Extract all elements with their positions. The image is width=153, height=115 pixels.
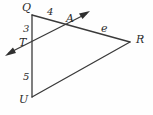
segment-length-label-TU: 5 <box>23 72 29 82</box>
segment-length-label-QA: 4 <box>47 7 53 17</box>
vertex-label-U: U <box>19 94 28 105</box>
vertex-label-T: T <box>19 37 26 48</box>
vertex-label-R: R <box>136 34 144 45</box>
segment-length-label-QT: 3 <box>23 24 29 34</box>
geometry-figure: Q 4 A 3 e T R 5 U <box>0 0 153 115</box>
vertex-label-Q: Q <box>22 2 31 13</box>
arrowhead-lower-left-icon <box>5 48 16 57</box>
segment-UR <box>32 42 130 97</box>
vertex-label-A: A <box>66 13 74 24</box>
segment-QR <box>32 15 130 42</box>
arrowhead-upper-right-icon <box>79 11 90 19</box>
segment-length-label-AR: e <box>101 23 108 34</box>
